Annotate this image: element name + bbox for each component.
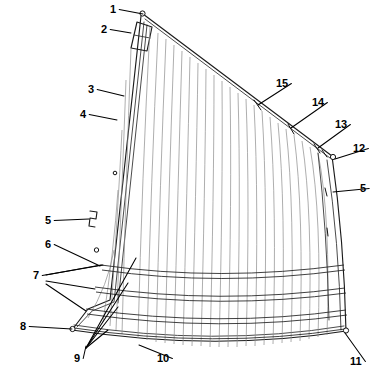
sail-diagram-svg: 1234567891011121314155 bbox=[0, 0, 387, 384]
callout-label-9: 9 bbox=[74, 352, 80, 364]
callout-label-5a: 5 bbox=[45, 214, 51, 226]
callout-label-1: 1 bbox=[110, 3, 116, 15]
panel-seam bbox=[286, 129, 292, 342]
panel-seam bbox=[262, 111, 266, 345]
callout-leader-7 bbox=[42, 265, 103, 276]
callout-label-8: 8 bbox=[20, 320, 26, 332]
panel-seam bbox=[254, 105, 257, 346]
callout-label-6: 6 bbox=[45, 238, 51, 250]
callout-label-2: 2 bbox=[101, 23, 107, 35]
batten-line bbox=[102, 270, 345, 279]
callout-leader-3 bbox=[97, 90, 124, 97]
callout-leader-4 bbox=[89, 115, 117, 121]
right-edge bbox=[332, 156, 346, 331]
panel-seam bbox=[318, 153, 328, 335]
callout-leader-layer bbox=[29, 10, 369, 362]
panel-seam bbox=[192, 63, 198, 346]
panel-seam bbox=[201, 69, 206, 346]
luff-edge-inner bbox=[77, 22, 144, 327]
panel-seam bbox=[237, 93, 239, 347]
right-edge-inner bbox=[327, 160, 341, 330]
panel-seam bbox=[294, 135, 301, 341]
panel-seam bbox=[156, 39, 166, 342]
callout-label-4: 4 bbox=[80, 108, 87, 120]
callout-leader-9 bbox=[83, 346, 86, 359]
figure-root: 1234567891011121314155 bbox=[0, 0, 387, 384]
item7-leader bbox=[46, 281, 95, 289]
luff-notch-detail bbox=[89, 211, 97, 227]
panel-seam bbox=[246, 99, 248, 346]
callout-label-5b: 5 bbox=[360, 182, 366, 194]
callout-label-12: 12 bbox=[353, 142, 365, 154]
callout-leader-6 bbox=[54, 245, 100, 267]
callout-label-11: 11 bbox=[350, 355, 362, 367]
panel-seam bbox=[310, 147, 319, 337]
panel-seam bbox=[219, 81, 222, 347]
callout-label-14: 14 bbox=[312, 96, 325, 108]
luff-lower-node-icon bbox=[113, 171, 117, 175]
callout-label-15: 15 bbox=[276, 77, 288, 89]
panel-seam bbox=[278, 123, 283, 343]
callout-leader-5a bbox=[54, 219, 89, 221]
callout-label-13: 13 bbox=[335, 118, 347, 130]
callout-label-7: 7 bbox=[33, 269, 39, 281]
leech-edge bbox=[143, 14, 332, 156]
luff-midpoint-node-icon bbox=[94, 248, 98, 252]
panel-seam bbox=[302, 141, 310, 339]
panel-seam bbox=[270, 117, 274, 344]
panel-seam bbox=[228, 87, 231, 347]
panel-seam bbox=[165, 45, 174, 343]
callout-leader-2 bbox=[110, 30, 131, 34]
batten-line bbox=[86, 309, 346, 319]
panel-seam bbox=[210, 75, 214, 347]
callout-leader-8 bbox=[29, 327, 72, 330]
batten-line bbox=[101, 265, 344, 274]
item7-leader-fan bbox=[46, 265, 101, 311]
callout-label-10: 10 bbox=[157, 352, 169, 364]
panel-seam bbox=[183, 57, 190, 345]
item7-leader bbox=[46, 284, 86, 311]
callout-leader-1 bbox=[119, 10, 143, 15]
leech-tick-group bbox=[254, 100, 327, 157]
clew-eyelet-icon bbox=[343, 328, 348, 333]
right-stay-tick bbox=[325, 188, 327, 196]
luff-notch-shape bbox=[89, 211, 97, 227]
batten-line bbox=[74, 328, 345, 339]
callout-label-3: 3 bbox=[88, 83, 94, 95]
